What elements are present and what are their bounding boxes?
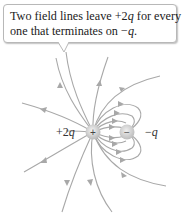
arrow-icon <box>40 157 47 163</box>
minus-icon: − <box>124 127 130 138</box>
charge-symbol: q <box>69 125 75 139</box>
callout-pointer <box>58 42 69 52</box>
arrow-icon <box>112 141 118 147</box>
arrow-icon <box>109 124 115 130</box>
arrow-icon <box>40 107 47 113</box>
arrow-icon <box>114 110 120 116</box>
positive-charge: + <box>86 125 101 140</box>
arrow-icon <box>112 118 118 124</box>
arrow-icon <box>118 101 124 107</box>
charge-value: − <box>145 125 152 139</box>
arrow-icon <box>87 179 93 186</box>
arrow-icon <box>120 157 126 163</box>
negative-charge-label: −q <box>145 125 158 140</box>
arrow-icon <box>57 82 63 88</box>
charge-symbol: q <box>152 125 158 139</box>
arrow-icon <box>96 80 102 86</box>
plus-icon: + <box>90 127 96 138</box>
arrowheads <box>40 80 127 186</box>
positive-charge-label: +2q <box>56 125 75 140</box>
field-line-diagram: + − <box>0 0 184 216</box>
arrow-icon <box>116 149 122 155</box>
charge-value: +2 <box>56 125 69 139</box>
negative-charge: − <box>120 125 135 140</box>
arrow-icon <box>64 180 70 186</box>
arrow-icon <box>109 135 115 141</box>
